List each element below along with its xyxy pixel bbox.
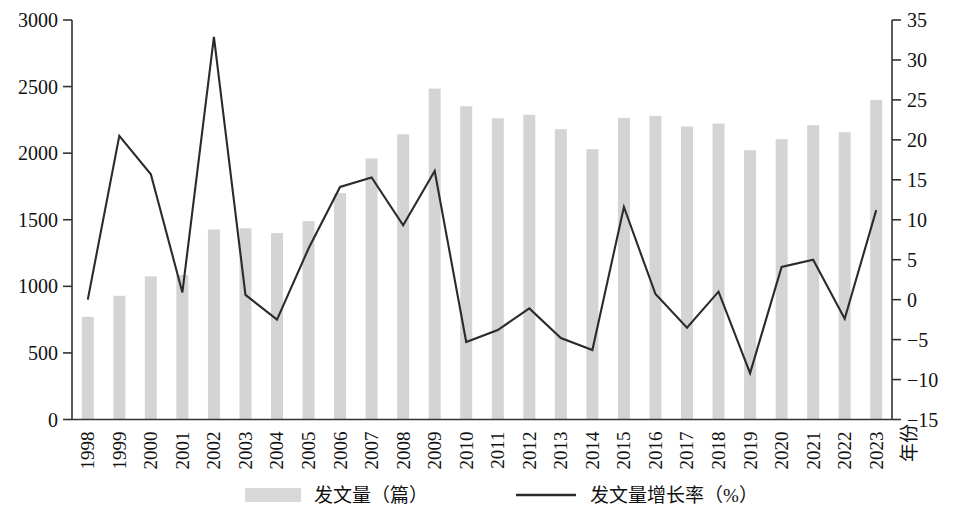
bar-2019 <box>744 150 756 419</box>
left-tick-label-1000: 1000 <box>18 275 58 297</box>
bar-2008 <box>397 134 409 419</box>
bar-2012 <box>523 115 535 420</box>
x-tick-label-2015: 2015 <box>613 432 634 470</box>
chart-container: 050010001500200025003000 −15−10−50510152… <box>0 0 954 514</box>
bar-1999 <box>113 296 125 420</box>
bar-2007 <box>366 158 378 419</box>
left-tick-label-500: 500 <box>28 342 58 364</box>
left-tick-label-2000: 2000 <box>18 142 58 164</box>
left-tick-label-1500: 1500 <box>18 209 58 231</box>
bar-2014 <box>586 149 598 419</box>
x-tick-label-2017: 2017 <box>676 432 697 470</box>
x-tick-label-2009: 2009 <box>424 432 445 470</box>
right-tick-label-30: 30 <box>907 49 927 71</box>
x-tick-label-2013: 2013 <box>550 432 571 470</box>
x-tick-label-2023: 2023 <box>866 432 887 470</box>
x-tick-label-2008: 2008 <box>393 432 414 470</box>
x-axis-title: 年份 <box>899 424 920 462</box>
x-tick-label-2004: 2004 <box>266 431 287 470</box>
x-tick-label-2020: 2020 <box>771 432 792 470</box>
bar-1998 <box>82 317 94 420</box>
left-tick-label-0: 0 <box>48 409 58 431</box>
x-tick-label-2007: 2007 <box>361 432 382 470</box>
x-tick-label-2010: 2010 <box>456 432 477 470</box>
right-tick-label-15: 15 <box>907 169 927 191</box>
x-tick-label-2000: 2000 <box>140 432 161 470</box>
bar-2011 <box>492 118 504 419</box>
bar-2022 <box>839 132 851 419</box>
bar-2006 <box>334 193 346 419</box>
bar-2017 <box>681 127 693 420</box>
bar-2010 <box>460 106 472 419</box>
publication-trend-chart: 050010001500200025003000 −15−10−50510152… <box>0 0 954 514</box>
bar-2021 <box>807 125 819 419</box>
x-tick-label-2003: 2003 <box>235 432 256 470</box>
x-tick-label-2001: 2001 <box>172 432 193 470</box>
left-tick-label-2500: 2500 <box>18 76 58 98</box>
x-tick-label-2011: 2011 <box>487 432 508 469</box>
x-tick-label-2018: 2018 <box>708 432 729 470</box>
right-tick-label-5: 5 <box>907 249 917 271</box>
bar-2023 <box>870 100 882 420</box>
x-tick-label-1998: 1998 <box>77 432 98 470</box>
x-tick-label-2012: 2012 <box>519 432 540 470</box>
right-tick-label--10: −10 <box>907 369 938 391</box>
bar-2000 <box>145 276 157 419</box>
right-tick-label-35: 35 <box>907 9 927 31</box>
bar-2018 <box>713 124 725 420</box>
right-tick-label-0: 0 <box>907 289 917 311</box>
x-tick-label-2002: 2002 <box>203 432 224 470</box>
x-tick-label-2022: 2022 <box>834 432 855 470</box>
x-tick-label-2014: 2014 <box>582 431 603 470</box>
x-tick-label-2021: 2021 <box>803 432 824 470</box>
legend-label-publications: 发文量（篇） <box>314 485 428 506</box>
bar-2013 <box>555 129 567 419</box>
x-tick-label-2016: 2016 <box>645 432 666 470</box>
right-tick-label-25: 25 <box>907 89 927 111</box>
x-tick-label-2019: 2019 <box>740 432 761 470</box>
x-tick-label-2005: 2005 <box>298 432 319 470</box>
right-tick-label--5: −5 <box>907 329 928 351</box>
x-tick-label-2006: 2006 <box>330 432 351 470</box>
x-tick-label-1999: 1999 <box>109 432 130 470</box>
bar-2002 <box>208 229 220 419</box>
bar-2004 <box>271 233 283 419</box>
bar-2001 <box>176 275 188 419</box>
right-tick-label-10: 10 <box>907 209 927 231</box>
bar-2009 <box>429 89 441 420</box>
bar-2016 <box>649 116 661 420</box>
bar-2015 <box>618 118 630 420</box>
right-tick-label-20: 20 <box>907 129 927 151</box>
left-tick-label-3000: 3000 <box>18 9 58 31</box>
legend-swatch-publications <box>245 488 301 502</box>
legend-label-growth-rate: 发文量增长率（%） <box>590 485 758 506</box>
